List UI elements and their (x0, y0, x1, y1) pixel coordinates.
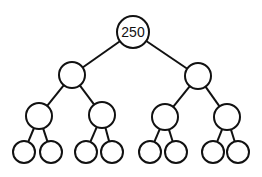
tree-edge (105, 128, 109, 142)
tree-node (185, 63, 211, 89)
node-label: 250 (121, 24, 145, 40)
tree-edge (47, 85, 64, 106)
tree-edge (83, 41, 120, 67)
tree-node (165, 141, 187, 163)
root-node: 250 (117, 16, 149, 48)
tree-node (101, 141, 123, 163)
tree-edge (231, 129, 235, 141)
tree-edge (169, 129, 173, 141)
tree-node (152, 104, 178, 130)
tree-edge (90, 127, 96, 142)
node-circle (26, 103, 52, 129)
node-circle (59, 62, 85, 88)
tree-node (13, 141, 35, 163)
tree-edge (217, 129, 222, 142)
node-circle (13, 141, 35, 163)
tree-node (227, 141, 249, 163)
node-circle (40, 141, 62, 163)
node-circle (139, 141, 161, 163)
node-circle (185, 63, 211, 89)
tree-edge (43, 128, 47, 141)
tree-node (26, 103, 52, 129)
node-circle (202, 141, 224, 163)
tree-edge (80, 85, 94, 104)
node-circle (214, 104, 240, 130)
tree-edge (206, 87, 220, 107)
tree-edge (154, 129, 160, 142)
node-circle (152, 104, 178, 130)
tree-node (139, 141, 161, 163)
node-circle (101, 141, 123, 163)
tree-edge (173, 86, 190, 107)
tree-node (75, 141, 97, 163)
tree-node (202, 141, 224, 163)
tree-node (214, 104, 240, 130)
tree-edge (28, 128, 34, 142)
node-circle (75, 141, 97, 163)
tree-nodes: 250 (13, 16, 249, 163)
tree-edge (146, 41, 187, 69)
tree-node (89, 102, 115, 128)
tree-node (59, 62, 85, 88)
tree-edges (28, 41, 234, 142)
tree-node (40, 141, 62, 163)
binary-tree-diagram: 250 (0, 0, 262, 177)
node-circle (165, 141, 187, 163)
node-circle (227, 141, 249, 163)
node-circle (89, 102, 115, 128)
